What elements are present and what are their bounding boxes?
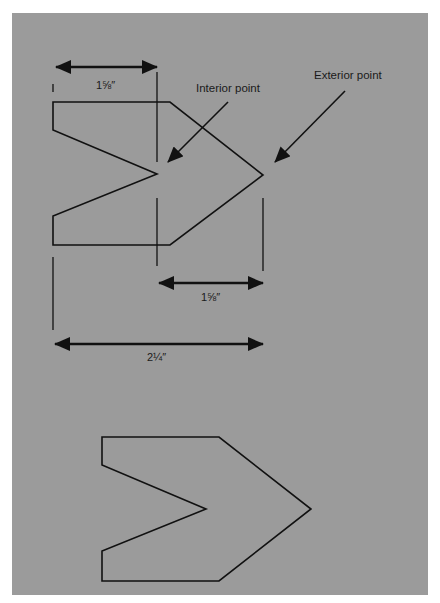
exterior-point-label: Exterior point [314, 69, 382, 81]
exterior-point-arrow [275, 91, 345, 162]
dimension-label-total: 2¼″ [147, 351, 166, 363]
interior-point-arrow [168, 102, 228, 162]
dimension-label-middle: 1⅝″ [201, 291, 220, 303]
plain-chevron-shape [102, 437, 311, 581]
figure-caption [0, 597, 440, 603]
dimensioned-chevron-shape [53, 102, 263, 245]
dimension-label-top: 1⅝″ [96, 79, 115, 91]
interior-point-label: Interior point [196, 82, 260, 94]
